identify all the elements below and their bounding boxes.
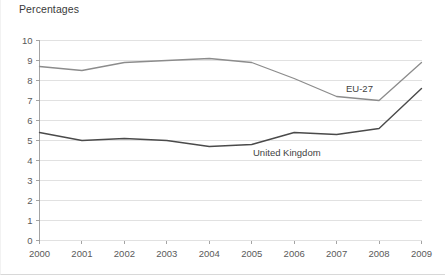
line-chart-plot: 012345678910 200020012002200320042005200… [1,0,445,275]
y-axis-tick-labels: 012345678910 [22,35,33,246]
y-tick-label: 10 [22,35,33,46]
chart-figure: Percentages 012345678910 200020012002200… [0,0,445,275]
y-tick-label: 9 [27,55,32,66]
x-tick-label: 2007 [326,248,347,259]
x-tick-label: 2000 [29,248,50,259]
series-label-eu-27: EU-27 [346,83,373,94]
y-tick-label: 3 [27,175,32,186]
x-tick-label: 2001 [71,248,92,259]
series-label-united-kingdom: United Kingdom [253,147,321,158]
y-tick-label: 5 [27,135,32,146]
tick-marks-group [36,41,422,245]
x-tick-label: 2002 [114,248,135,259]
y-tick-label: 1 [27,215,32,226]
y-tick-label: 8 [27,75,32,86]
y-tick-label: 7 [27,95,32,106]
y-tick-label: 4 [27,155,32,166]
y-tick-label: 0 [27,235,32,246]
y-tick-label: 6 [27,115,32,126]
x-tick-label: 2005 [241,248,262,259]
x-tick-label: 2004 [199,248,220,259]
x-axis-tick-labels: 2000200120022003200420052006200720082009 [29,248,432,259]
y-tick-label: 2 [27,195,32,206]
data-series-group [40,59,422,147]
x-tick-label: 2006 [284,248,305,259]
x-tick-label: 2008 [368,248,389,259]
series-line-eu-27 [40,59,422,101]
x-tick-label: 2009 [411,248,432,259]
x-tick-label: 2003 [156,248,177,259]
series-line-united-kingdom [40,89,422,147]
